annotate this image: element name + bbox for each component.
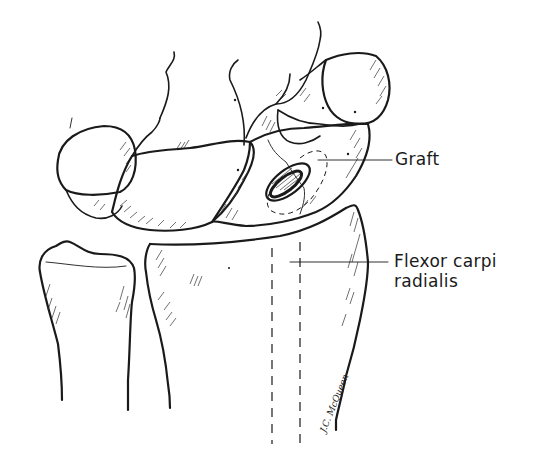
flexor-carpi-radialis-label: Flexor carpi radialis [394,251,534,291]
ulna [40,241,135,410]
flexor-label-line1: Flexor carpi [394,251,534,271]
graft-label: Graft [395,149,439,169]
graft-plug [260,151,327,214]
flexor-label-line2: radialis [394,271,534,291]
carpal-upper [234,22,390,144]
carpal-left [57,118,135,218]
bone-drawing [0,0,539,474]
wrist-illustration: Graft Flexor carpi radialis J.C. McQueen [0,0,539,474]
carpal-graft-bone [212,123,370,226]
